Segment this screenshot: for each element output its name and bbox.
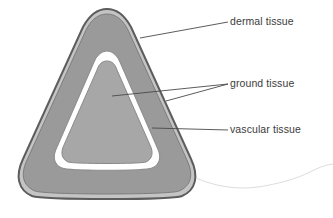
leader-line-ground-outer: [166, 84, 228, 101]
label-dermal-tissue: dermal tissue: [230, 15, 294, 27]
label-ground-tissue: ground tissue: [230, 77, 294, 89]
page-edge-scan-artifact: [196, 164, 333, 188]
cross-section-shape: [19, 9, 196, 199]
label-vascular-tissue: vascular tissue: [230, 123, 301, 135]
leader-line-dermal: [140, 22, 228, 38]
figure-root: dermal tissue ground tissue vascular tis…: [0, 0, 333, 218]
cross-section-diagram: [0, 0, 333, 218]
